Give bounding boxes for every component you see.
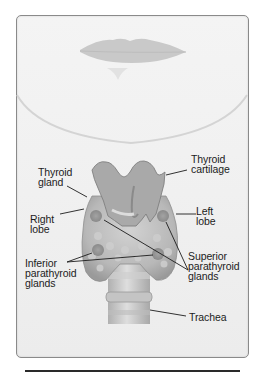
parathyroid-right-inferior-icon [92,244,104,256]
label-right-lobe: Right lobe [30,214,54,234]
label-inferior-parathyroid-glands: Inferior parathyroid glands [25,258,76,288]
parathyroid-right-superior-icon [90,210,102,222]
label-left-lobe: Left lobe [196,206,215,226]
label-thyroid-cartilage: Thyroid cartilage [191,154,230,174]
label-superior-parathyroid-glands: Superior parathyroid glands [188,251,239,281]
bottom-rule [25,370,240,372]
parathyroid-left-superior-icon [157,210,169,222]
label-trachea: Trachea [189,312,226,322]
jaw-curve [17,95,247,143]
lips-icon [80,39,186,80]
label-thyroid-gland: Thyroid gland [38,167,72,187]
thyroid-gland-icon [82,161,178,281]
